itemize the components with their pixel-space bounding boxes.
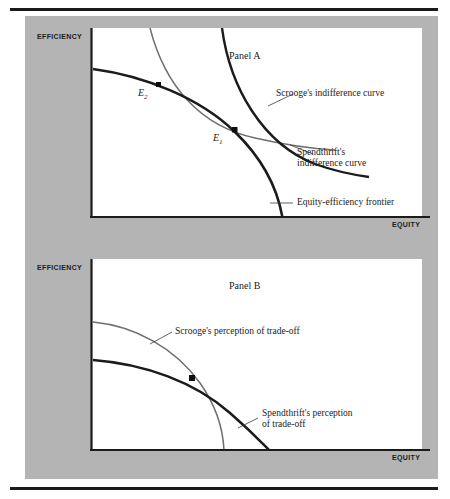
spendthrift-indifference-curve-label-line2: indifference curve <box>297 158 366 169</box>
panel-b-title: Panel B <box>229 280 260 291</box>
panel-a: EFFICIENCY EQUITY Panel A Scrooge's indi… <box>25 16 438 241</box>
point-e1-label: E1 <box>213 132 223 146</box>
point-e2-label: E2 <box>138 87 148 101</box>
panel-a-y-axis-label: EFFICIENCY <box>37 33 82 40</box>
top-rule <box>10 8 438 11</box>
bottom-rule <box>10 487 438 490</box>
scrooge-indifference-curve-label: Scrooge's indifference curve <box>276 88 384 99</box>
panel-b: EFFICIENCY EQUITY Panel B Scrooge's perc… <box>25 248 438 479</box>
equity-efficiency-frontier-label: Equity-efficiency frontier <box>297 197 394 208</box>
spendthrift-perception-label-line1: Spendthrift's perception <box>262 408 353 419</box>
figure-page: EFFICIENCY EQUITY Panel A Scrooge's indi… <box>0 0 450 499</box>
panel-b-y-axis-label: EFFICIENCY <box>37 264 82 271</box>
panel-a-x-axis-label: EQUITY <box>392 221 420 228</box>
point-e1-subscript: 1 <box>219 138 223 146</box>
panel-a-title: Panel A <box>229 50 260 61</box>
scrooge-perception-label: Scrooge's perception of trade-off <box>175 326 300 337</box>
point-e2-subscript: 2 <box>144 93 148 101</box>
spendthrift-indifference-curve-label-line1: Spendthrift's <box>297 147 345 158</box>
spendthrift-perception-label-line2: of trade-off <box>262 419 305 430</box>
panel-b-x-axis-label: EQUITY <box>392 454 420 461</box>
